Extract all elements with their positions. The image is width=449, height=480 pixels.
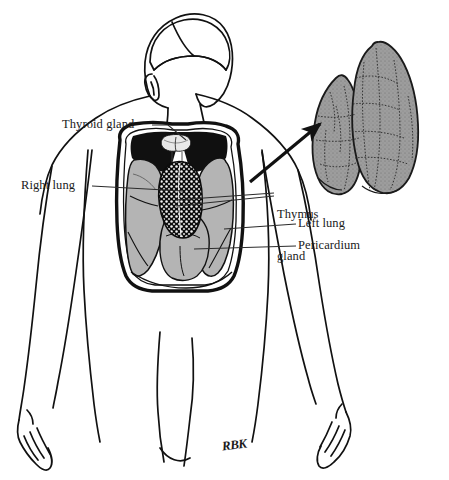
artist-signature: RBK (221, 436, 247, 455)
label-left-lung: Left lung (298, 217, 345, 231)
label-thyroid-gland: Thyroid gland (62, 118, 134, 132)
label-pericardium: Pericardium (298, 239, 360, 253)
thyroid-gland-organ (161, 135, 191, 152)
thoracic-cavity (117, 123, 244, 292)
anatomy-figure: Thyroid gland Right lung Thymus gland Le… (0, 0, 449, 480)
label-right-lung: Right lung (21, 179, 75, 193)
anatomy-illustration (0, 0, 449, 480)
